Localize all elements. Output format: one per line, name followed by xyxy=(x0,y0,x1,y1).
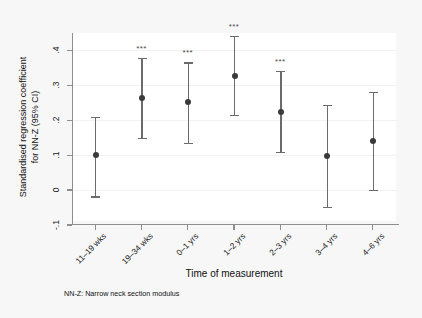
y-tick-mark xyxy=(67,50,72,51)
y-tick-mark xyxy=(67,155,72,156)
y-tick-label: .4 xyxy=(48,44,64,56)
ci-upper-cap xyxy=(276,71,285,72)
x-axis-line xyxy=(72,224,399,225)
y-axis-line xyxy=(72,33,73,225)
y-axis-title-line2: for NN-Z (95% CI) xyxy=(29,57,41,197)
significance-marker: *** xyxy=(182,48,193,57)
y-tick-mark xyxy=(67,85,72,86)
ci-lower-cap xyxy=(276,152,285,153)
significance-marker: *** xyxy=(229,22,240,31)
x-tick-mark xyxy=(95,225,96,230)
y-tick-label: 0 xyxy=(48,184,64,196)
y-axis-title: Standardised regression coefficient for … xyxy=(14,33,44,221)
y-tick-mark xyxy=(67,120,72,121)
ci-lower-cap xyxy=(230,115,239,116)
y-tick-mark xyxy=(67,189,72,190)
y-tick-label: .1 xyxy=(48,149,64,161)
data-marker xyxy=(278,109,284,115)
gridline xyxy=(73,155,396,156)
chart-footnote: NN-Z: Narrow neck section modulus xyxy=(64,289,179,298)
x-tick-mark xyxy=(280,225,281,230)
ci-lower-cap xyxy=(369,190,378,191)
gridline xyxy=(73,190,396,191)
x-tick-mark xyxy=(141,225,142,230)
data-marker xyxy=(93,152,99,158)
x-tick-mark xyxy=(326,225,327,230)
data-marker xyxy=(232,73,238,79)
y-axis-title-line1: Standardised regression coefficient xyxy=(17,57,29,197)
significance-marker: *** xyxy=(136,44,147,53)
y-tick-label: .2 xyxy=(48,114,64,126)
y-tick-mark xyxy=(67,224,72,225)
ci-lower-cap xyxy=(184,143,193,144)
y-tick-label: .3 xyxy=(48,79,64,91)
ci-lower-cap xyxy=(138,138,147,139)
ci-lower-cap xyxy=(323,207,332,208)
ci-upper-cap xyxy=(230,36,239,37)
x-tick-mark xyxy=(372,225,373,230)
gridline xyxy=(73,120,396,121)
ci-upper-cap xyxy=(91,117,100,118)
x-tick-mark xyxy=(233,225,234,230)
chart-figure: -.10.1.2.3.4 11–19 wks19–34 wks0–1 yrs1–… xyxy=(0,0,422,318)
x-tick-mark xyxy=(187,225,188,230)
significance-marker: *** xyxy=(275,57,286,66)
ci-lower-cap xyxy=(91,196,100,197)
data-marker xyxy=(139,95,145,101)
ci-upper-cap xyxy=(323,105,332,106)
ci-upper-cap xyxy=(138,58,147,59)
ci-upper-cap xyxy=(369,92,378,93)
y-tick-label: -.1 xyxy=(48,219,64,231)
ci-upper-cap xyxy=(184,62,193,63)
x-axis-title: Time of measurement xyxy=(72,268,396,279)
